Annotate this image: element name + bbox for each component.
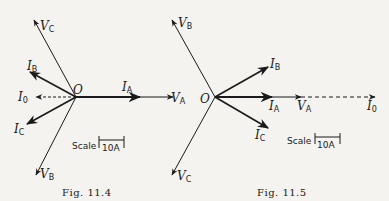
phasor-diagrams: O VC IB I0 IC VB IA VA Scale 10A Fig. 11… <box>0 0 389 201</box>
label-ic: IC <box>13 122 25 137</box>
label-va: VA <box>297 99 312 114</box>
scale-value: 10A <box>317 140 335 150</box>
label-ib: IB <box>26 59 37 74</box>
scale-bar: Scale 10A <box>72 136 124 153</box>
label-i0: I0 <box>17 90 28 105</box>
figure-11-4: O VC IB I0 IC VB IA VA Scale 10A Fig. 11… <box>13 19 186 198</box>
phasor-ib <box>215 67 268 97</box>
figure-caption: Fig. 11.4 <box>62 187 112 198</box>
phasor-vb <box>172 20 215 97</box>
scale-value: 10A <box>102 143 120 153</box>
label-ia: IA <box>121 80 133 95</box>
label-vb: VB <box>178 16 192 31</box>
figure-caption: Fig. 11.5 <box>257 187 307 198</box>
label-vc: VC <box>177 169 192 184</box>
scale-bar: Scale 10A <box>287 133 340 150</box>
label-i0: I0 <box>366 99 377 114</box>
label-ib: IB <box>269 57 280 72</box>
label-ic: IC <box>254 128 266 143</box>
label-vc: VC <box>40 19 55 34</box>
label-ia: IA <box>268 99 280 114</box>
phasor-vc <box>172 97 215 175</box>
label-va: VA <box>171 91 186 106</box>
scale-label: Scale <box>72 141 97 151</box>
origin-label: O <box>73 83 83 97</box>
phasor-ic <box>215 97 268 128</box>
origin-label: O <box>200 92 210 106</box>
figure-11-5: O VB VC IB IA VA I0 IC Scale 10A Fig. 11… <box>172 16 377 198</box>
scale-label: Scale <box>287 136 312 146</box>
label-vb: VB <box>40 167 54 182</box>
